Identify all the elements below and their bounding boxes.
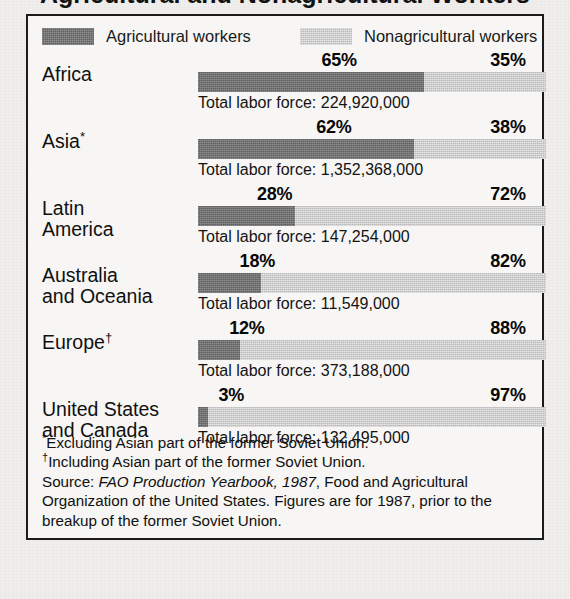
region-label: LatinAmerica bbox=[42, 198, 198, 240]
region-label: Africa bbox=[42, 64, 198, 85]
total-labor-force: Total labor force: 1,352,368,000 bbox=[198, 161, 423, 179]
bar-zone: 28%72%Total labor force: 147,254,000 bbox=[198, 184, 546, 251]
chart-rows: Africa65%35%Total labor force: 224,920,0… bbox=[28, 50, 542, 452]
percent-labels: 3%97% bbox=[198, 385, 546, 407]
bar-zone: 18%82%Total labor force: 11,549,000 bbox=[198, 251, 546, 318]
agricultural-percent-label: 12% bbox=[229, 318, 264, 339]
bar-segment-nonagricultural bbox=[261, 273, 546, 293]
source-note: Source: FAO Production Yearbook, 1987, F… bbox=[42, 472, 532, 531]
bar-segment-nonagricultural bbox=[240, 340, 546, 360]
bar-segment-nonagricultural bbox=[295, 206, 546, 226]
footnote-dagger: †Including Asian part of the former Sovi… bbox=[42, 452, 532, 472]
chart-row: Africa65%35%Total labor force: 224,920,0… bbox=[28, 50, 542, 117]
region-label-marker: † bbox=[105, 330, 112, 345]
legend-swatch-nonagricultural-icon bbox=[300, 28, 352, 45]
bar-segment-nonagricultural bbox=[424, 72, 546, 92]
nonagricultural-percent-label: 35% bbox=[490, 50, 525, 71]
stacked-bar bbox=[198, 206, 546, 226]
total-labor-force: Total labor force: 373,188,000 bbox=[198, 362, 410, 380]
legend-item-agricultural: Agricultural workers bbox=[42, 22, 251, 50]
chart-row: Australiaand Oceania18%82%Total labor fo… bbox=[28, 251, 542, 318]
nonagricultural-percent-label: 38% bbox=[490, 117, 525, 138]
bar-segment-nonagricultural bbox=[414, 139, 546, 159]
chart-panel: Agricultural workers Nonagricultural wor… bbox=[26, 14, 544, 540]
total-labor-force: Total labor force: 11,549,000 bbox=[198, 295, 400, 313]
region-label-line2: and Oceania bbox=[42, 285, 153, 307]
nonagricultural-percent-label: 82% bbox=[490, 251, 525, 272]
bar-segment-agricultural bbox=[198, 273, 261, 293]
footnote-dagger-text: Including Asian part of the former Sovie… bbox=[48, 453, 365, 470]
bar-segment-nonagricultural bbox=[208, 407, 546, 427]
agricultural-percent-label: 62% bbox=[316, 117, 351, 138]
region-label-line1: United States bbox=[42, 398, 159, 420]
chart-row: Asia*62%38%Total labor force: 1,352,368,… bbox=[28, 117, 542, 184]
nonagricultural-percent-label: 72% bbox=[490, 184, 525, 205]
bar-zone: 12%88%Total labor force: 373,188,000 bbox=[198, 318, 546, 385]
legend-label-nonagricultural: Nonagricultural workers bbox=[364, 27, 537, 46]
total-labor-force: Total labor force: 147,254,000 bbox=[198, 228, 410, 246]
nonagricultural-percent-label: 97% bbox=[490, 385, 525, 406]
stacked-bar bbox=[198, 407, 546, 427]
region-label-line1: Europe bbox=[42, 331, 105, 353]
region-label-line2: America bbox=[42, 218, 114, 240]
footnote-asterisk: *Excluding Asian part of the former Sovi… bbox=[42, 433, 532, 453]
source-prefix: Source: bbox=[42, 473, 99, 490]
bar-segment-agricultural bbox=[198, 206, 295, 226]
legend-item-nonagricultural: Nonagricultural workers bbox=[300, 22, 537, 50]
percent-labels: 28%72% bbox=[198, 184, 546, 206]
nonagricultural-percent-label: 88% bbox=[490, 318, 525, 339]
region-label-line1: Latin bbox=[42, 197, 84, 219]
percent-labels: 62%38% bbox=[198, 117, 546, 139]
figure-title-text: Agricultural and Nonagricultural Workers bbox=[0, 0, 570, 9]
figure-title-cropped: Agricultural and Nonagricultural Workers bbox=[0, 0, 570, 13]
agricultural-percent-label: 18% bbox=[240, 251, 275, 272]
source-title: FAO Production Yearbook, 1987 bbox=[99, 473, 316, 490]
chart-row: LatinAmerica28%72%Total labor force: 147… bbox=[28, 184, 542, 251]
percent-labels: 18%82% bbox=[198, 251, 546, 273]
stacked-bar bbox=[198, 139, 546, 159]
percent-labels: 12%88% bbox=[198, 318, 546, 340]
region-label: Europe† bbox=[42, 332, 198, 353]
bar-zone: 62%38%Total labor force: 1,352,368,000 bbox=[198, 117, 546, 184]
stacked-bar bbox=[198, 72, 546, 92]
region-label: Asia* bbox=[42, 131, 198, 152]
total-labor-force: Total labor force: 224,920,000 bbox=[198, 94, 410, 112]
bar-segment-agricultural bbox=[198, 340, 240, 360]
figure-notes: *Excluding Asian part of the former Sovi… bbox=[42, 433, 532, 531]
bar-zone: 65%35%Total labor force: 224,920,000 bbox=[198, 50, 546, 117]
bar-segment-agricultural bbox=[198, 407, 208, 427]
agricultural-percent-label: 28% bbox=[257, 184, 292, 205]
legend-swatch-agricultural-icon bbox=[42, 28, 94, 45]
legend-label-agricultural: Agricultural workers bbox=[106, 27, 251, 46]
region-label-line1: Africa bbox=[42, 63, 92, 85]
stacked-bar bbox=[198, 273, 546, 293]
agricultural-percent-label: 65% bbox=[321, 50, 356, 71]
region-label-line1: Australia bbox=[42, 264, 118, 286]
region-label-line1: Asia bbox=[42, 130, 80, 152]
chart-row: Europe†12%88%Total labor force: 373,188,… bbox=[28, 318, 542, 385]
agricultural-percent-label: 3% bbox=[218, 385, 244, 406]
chart-legend: Agricultural workers Nonagricultural wor… bbox=[28, 22, 542, 50]
region-label: Australiaand Oceania bbox=[42, 265, 198, 307]
bar-segment-agricultural bbox=[198, 72, 424, 92]
footnote-asterisk-text: Excluding Asian part of the former Sovie… bbox=[46, 434, 368, 451]
stacked-bar bbox=[198, 340, 546, 360]
bar-segment-agricultural bbox=[198, 139, 414, 159]
percent-labels: 65%35% bbox=[198, 50, 546, 72]
region-label-marker: * bbox=[80, 129, 85, 144]
